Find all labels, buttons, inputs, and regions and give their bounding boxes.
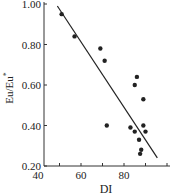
data-point (135, 75, 139, 79)
x-tick-label: 60 (76, 169, 88, 181)
data-point (143, 129, 147, 133)
axes (44, 2, 170, 166)
data-point (98, 46, 102, 50)
data-point (59, 12, 63, 16)
data-point (139, 148, 143, 152)
data-point (133, 129, 137, 133)
y-tick-label: 1.00 (22, 0, 42, 10)
tick-labels: 0.200.400.600.801.00406080 (22, 0, 130, 181)
data-points (59, 12, 147, 156)
data-point (128, 125, 132, 129)
y-axis-label: Eu/Eu* (2, 72, 15, 104)
x-tick-label: 80 (119, 169, 131, 181)
data-point (141, 123, 145, 127)
data-point (133, 83, 137, 87)
trend-line (57, 6, 157, 158)
scatter-chart: 0.200.400.600.801.00406080 DI Eu/Eu* (0, 0, 175, 196)
data-point (102, 59, 106, 63)
y-tick-label: 0.80 (22, 39, 42, 51)
x-tick-label: 40 (33, 169, 45, 181)
data-point (105, 123, 109, 127)
data-point (72, 34, 76, 38)
y-tick-label: 0.40 (22, 120, 42, 132)
y-tick-label: 0.60 (22, 79, 42, 91)
data-point (137, 137, 141, 141)
data-point (141, 97, 145, 101)
data-point (138, 152, 142, 156)
x-axis-label: DI (100, 182, 113, 196)
